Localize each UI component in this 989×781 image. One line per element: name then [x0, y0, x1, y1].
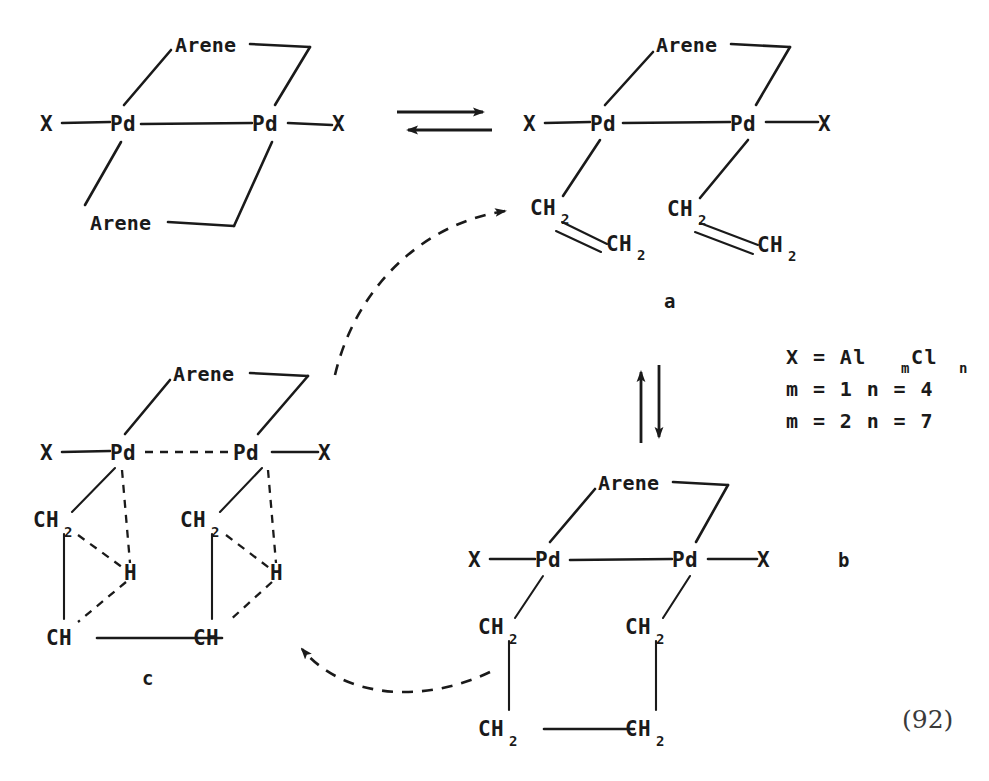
bond-pd-x-right: [288, 123, 332, 125]
a-ethylene2-double-b: [695, 232, 753, 254]
c-bond-pd-left-ch2: [72, 468, 115, 512]
c-atom-ch-left: CH: [46, 626, 72, 650]
c-bond-pd-left-arene: [125, 380, 170, 434]
a-bond-arene-span: [731, 44, 790, 47]
formula-line-1-sub-n: n: [959, 360, 967, 376]
a-atom-x-right: X: [818, 112, 831, 136]
c-atom-ch-right: CH: [193, 626, 219, 650]
c-bond-x-pd-left: [62, 451, 110, 452]
c-atom-h-right: H: [270, 561, 283, 585]
a-atom-ethylene1-c2-sub: 2: [637, 247, 645, 263]
b-atom-ch2-upper-left: CH: [478, 615, 504, 639]
a-bond-x-pd-left: [545, 122, 590, 123]
atom-x-left: X: [40, 112, 53, 136]
a-bond-pd-left-ethylene: [563, 140, 600, 196]
formula-line-1-sub-m: m: [901, 360, 909, 376]
b-atom-ch2-upper-right: CH: [625, 615, 651, 639]
b-atom-x-right: X: [757, 548, 770, 572]
c-atom-ch2-right: CH: [180, 508, 206, 532]
c-bond-pd-left-h-dashed: [122, 470, 130, 563]
dashed-arrow-c-to-a: [335, 211, 505, 375]
label-structure-a: a: [664, 290, 675, 312]
a-atom-ethylene1-c2: CH: [606, 232, 632, 256]
structure-b: X Pd Pd X Arene CH 2 CH 2 CH 2 CH 2 b: [468, 471, 849, 749]
curved-arrow-b-to-c: [302, 649, 490, 692]
c-atom-pd-right: Pd: [233, 441, 259, 465]
a-atom-x-left: X: [523, 112, 536, 136]
b-atom-ch2-lower-left: CH: [478, 717, 504, 741]
c-atom-pd-left: Pd: [110, 441, 136, 465]
formula-line-3: m = 2 n = 7: [786, 409, 934, 433]
a-ethylene1-double-b: [556, 231, 601, 252]
b-bond-pd-pd: [570, 559, 672, 560]
c-atom-ch2-left: CH: [33, 508, 59, 532]
b-bond-pd-right-ch2: [663, 576, 690, 618]
b-bond-pd-left-arene: [550, 489, 595, 542]
atom-x-right: X: [332, 112, 345, 136]
c-atom-ch2-right-sub: 2: [211, 524, 219, 540]
a-atom-ethylene2-c1: CH: [667, 197, 693, 221]
c-bond-arene-to-pd-right: [258, 376, 308, 434]
a-atom-ethylene1-c1: CH: [530, 196, 556, 220]
c-bond-ch2-h-right-dashed: [226, 535, 272, 570]
a-bond-pd-left-arene: [605, 52, 653, 105]
b-atom-x-left: X: [468, 548, 481, 572]
bond-x-pd-left: [62, 122, 110, 123]
a-atom-pd-right: Pd: [730, 112, 756, 136]
bond-arene-bottom-span: [168, 222, 234, 226]
atom-pd-left: Pd: [110, 112, 136, 136]
c-bond-pd-right-h-dashed: [268, 470, 276, 563]
formula-line-1-lhs: X = Al: [786, 345, 867, 369]
c-atom-h-left: H: [124, 561, 137, 585]
b-label-arene: Arene: [598, 471, 659, 495]
c-bond-ch2-h-left-dashed: [78, 535, 126, 570]
reaction-scheme-canvas: X Pd Pd X Arene Arene: [0, 0, 989, 781]
c-bond-pd-right-ch2: [220, 468, 262, 512]
dashed-arrow-b-to-c: [302, 649, 490, 692]
atom-pd-right: Pd: [252, 112, 278, 136]
formula-line-2: m = 1 n = 4: [786, 377, 934, 401]
b-atom-ch2-upper-left-sub: 2: [509, 631, 517, 647]
c-bond-h-ch-left-dashed: [78, 582, 126, 622]
a-atom-pd-left: Pd: [590, 112, 616, 136]
label-arene-bottom: Arene: [90, 211, 151, 235]
b-atom-ch2-lower-right: CH: [625, 717, 651, 741]
b-atom-pd-left: Pd: [535, 548, 561, 572]
b-atom-pd-right: Pd: [672, 548, 698, 572]
c-label-arene: Arene: [173, 362, 234, 386]
c-atom-ch2-left-sub: 2: [64, 524, 72, 540]
reference-number: (92): [902, 705, 953, 734]
bond-arene-bottom-to-pd-right: [234, 142, 272, 226]
bond-pd-pd: [141, 123, 252, 124]
a-atom-ethylene2-c2: CH: [757, 233, 783, 257]
b-atom-ch2-lower-left-sub: 2: [509, 733, 517, 749]
label-structure-b: b: [838, 549, 849, 571]
horizontal-equilibrium-arrows: [397, 112, 492, 130]
b-atom-ch2-upper-right-sub: 2: [656, 631, 664, 647]
a-ethylene2-double-a: [700, 223, 758, 245]
bond-arene-top-span: [250, 44, 310, 47]
structure-c: X Pd Pd X Arene CH 2 CH 2 H H CH CH c: [33, 362, 331, 689]
c-atom-x-left: X: [40, 441, 53, 465]
a-bond-arene-to-pd-right: [756, 47, 790, 105]
structure-a: X Pd Pd X Arene CH 2 CH 2 CH 2 CH 2 a: [523, 33, 831, 312]
a-atom-ethylene2-c2-sub: 2: [788, 248, 796, 264]
a-label-arene: Arene: [656, 33, 717, 57]
c-atom-x-right: X: [318, 441, 331, 465]
vertical-equilibrium-arrows: [641, 365, 659, 443]
b-bond-pd-left-ch2: [515, 576, 543, 618]
curved-arrow-c-to-a: [335, 211, 505, 375]
bond-pd-left-arene-bottom: [85, 142, 121, 205]
chemical-scheme-page: X Pd Pd X Arene Arene: [0, 0, 989, 781]
b-bond-arene-to-pd-right: [696, 485, 728, 542]
label-structure-c: c: [142, 667, 153, 689]
c-bond-arene-span: [250, 373, 308, 376]
b-bond-arene-span: [673, 482, 728, 485]
c-bond-h-ch-right-dashed: [228, 582, 272, 622]
bond-pd-left-arene-top: [124, 50, 171, 105]
structure-reactant: X Pd Pd X Arene Arene: [40, 33, 345, 235]
a-bond-pd-pd: [623, 122, 730, 123]
formula-block: X = Al m Cl n m = 1 n = 4 m = 2 n = 7: [786, 345, 967, 433]
b-atom-ch2-lower-right-sub: 2: [656, 733, 664, 749]
a-atom-ethylene1-c1-sub: 2: [561, 211, 569, 227]
